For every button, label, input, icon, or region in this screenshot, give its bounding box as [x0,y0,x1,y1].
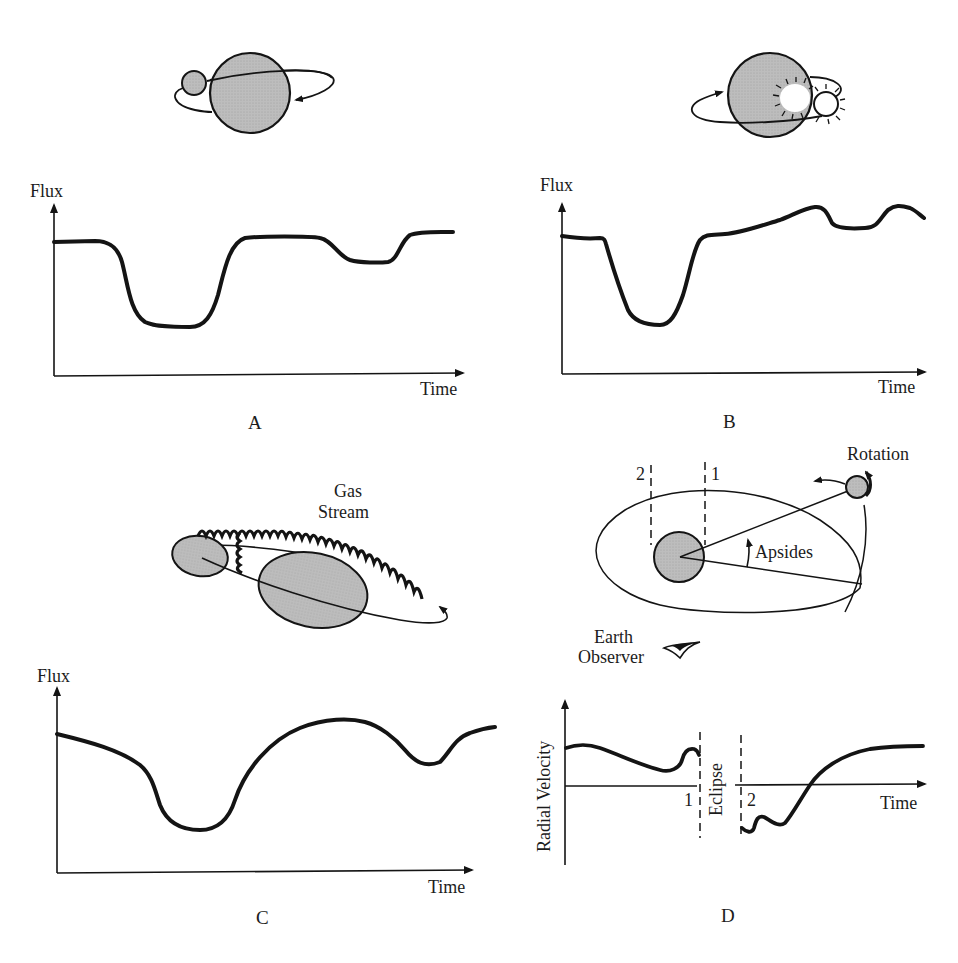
panel-a [54,53,463,376]
panel-c [57,531,495,873]
primary-star [210,53,290,133]
earth-observer-label-line2: Observer [578,648,644,666]
figure-canvas [0,0,958,963]
rv-curve-after [742,746,923,832]
panel-d-y-label: Radial Velocity [535,741,553,852]
panel-a-letter: A [248,413,262,432]
panel-d-letter: D [721,906,735,925]
panel-c-x-label: Time [428,878,465,896]
earth-observer-label-line1: Earth [594,628,633,646]
panel-d-x-label: Time [880,794,917,812]
diagram-marker-1: 1 [711,465,720,483]
panel-b [562,53,925,374]
panel-c-binary-diagram [169,531,447,638]
gas-stream-label-line1: Gas [334,482,362,500]
panel-b-binary-diagram [692,53,845,137]
x-axis [57,870,472,873]
rotation-label: Rotation [847,445,909,463]
eclipse-label: Eclipse [707,763,725,816]
light-curve-a [54,232,453,327]
rv-marker-2: 2 [747,791,756,809]
orbital-motion-arrow [815,480,845,484]
rv-curve-before [566,745,699,771]
panel-c-y-label: Flux [37,667,70,685]
rv-marker-1: 1 [684,791,693,809]
diagram-marker-2: 2 [636,465,645,483]
primary-star [654,532,704,582]
panel-a-x-label: Time [420,380,457,398]
gas-stream-branch [237,533,242,573]
eye-icon [664,642,700,658]
light-curve-b [562,206,924,325]
heated-spot [780,84,810,112]
accretor-star [252,542,375,637]
x-axis [54,373,463,376]
eccentric-orbit [596,490,861,612]
x-axis-right [735,784,925,785]
panel-b-letter: B [723,412,736,431]
secondary-star [182,71,206,95]
secondary-star [846,476,868,498]
panel-c-letter: C [256,908,269,927]
panel-a-binary-diagram [175,53,334,133]
apsides-label: Apsides [755,543,813,561]
apsides-angle-arrow [747,540,749,567]
panel-a-y-label: Flux [30,182,63,200]
x-axis [562,372,925,374]
hot-star [814,92,838,116]
gas-stream-label-line2: Stream [318,503,369,521]
panel-d-orbit-diagram [596,462,870,658]
light-curve-c [57,720,495,830]
panel-b-x-label: Time [878,378,915,396]
panel-b-y-label: Flux [540,176,573,194]
